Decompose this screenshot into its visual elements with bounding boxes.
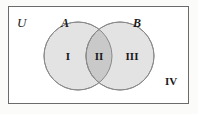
universe-label: U <box>17 15 28 30</box>
set-b-label: B <box>132 16 141 30</box>
venn-diagram-canvas: U A B I II III IV <box>0 0 198 114</box>
region-label-iv: IV <box>165 75 177 87</box>
region-label-i: I <box>66 50 70 62</box>
venn-diagram-figure: U A B I II III IV <box>0 0 198 114</box>
region-label-ii: II <box>95 50 104 62</box>
region-label-iii: III <box>126 50 139 62</box>
set-a-label: A <box>60 16 69 30</box>
